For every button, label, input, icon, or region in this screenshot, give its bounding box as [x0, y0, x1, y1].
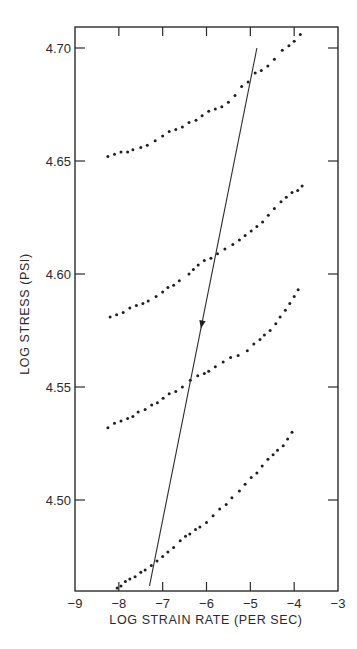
data-point [137, 410, 140, 413]
data-point [291, 431, 294, 434]
data-point [146, 144, 149, 147]
data-point [197, 264, 200, 267]
data-point [194, 528, 197, 531]
data-point [198, 526, 201, 529]
data-point [222, 361, 225, 364]
data-point [179, 539, 182, 542]
data-point [172, 546, 175, 549]
data-point [214, 365, 217, 368]
data-point [106, 155, 109, 158]
data-point [263, 334, 266, 337]
y-tick-label: 4.50 [46, 493, 71, 508]
data-point [254, 71, 257, 74]
x-tick-label: −8 [111, 596, 126, 611]
data-point [162, 397, 165, 400]
data-point [188, 121, 191, 124]
y-tick-label: 4.55 [46, 380, 71, 395]
x-axis-title: LOG STRAIN RATE (PER SEC) [109, 613, 302, 627]
data-point [122, 311, 125, 314]
x-tick-label: −6 [199, 596, 214, 611]
data-point [250, 230, 253, 233]
data-point [135, 304, 138, 307]
data-point [128, 306, 131, 309]
data-point [181, 126, 184, 129]
data-point [234, 94, 237, 97]
data-point [203, 259, 206, 262]
data-point [156, 401, 159, 404]
data-point [220, 105, 223, 108]
data-point [214, 108, 217, 111]
data-point [116, 587, 119, 590]
data-point [288, 302, 291, 305]
data-point [168, 130, 171, 133]
data-point [192, 268, 195, 271]
data-point [212, 514, 215, 517]
y-tick-label: 4.60 [46, 267, 71, 282]
data-point [174, 128, 177, 131]
data-point [131, 415, 134, 418]
data-point [203, 372, 206, 375]
data-point [174, 390, 177, 393]
data-point [161, 555, 164, 558]
data-point [188, 532, 191, 535]
chart-canvas: −9−8−7−6−5−4−3 4.504.554.604.654.70 LOG … [0, 0, 357, 649]
data-point [255, 471, 258, 474]
data-point [178, 279, 181, 282]
data-point [293, 295, 296, 298]
data-point [291, 191, 294, 194]
data-point [161, 135, 164, 138]
data-point [282, 444, 285, 447]
y-tick-label: 4.70 [46, 41, 71, 56]
data-point [134, 575, 137, 578]
x-tick-label: −3 [331, 596, 346, 611]
data-point [230, 496, 233, 499]
data-point [229, 356, 232, 359]
data-point [225, 503, 228, 506]
data-point [209, 257, 212, 260]
data-point [227, 101, 230, 104]
data-point [139, 146, 142, 149]
data-point [286, 438, 289, 441]
data-point [207, 370, 210, 373]
data-point [184, 535, 187, 538]
data-point [250, 476, 253, 479]
y-tick-label: 4.65 [46, 154, 71, 169]
data-point [113, 422, 116, 425]
data-point [284, 309, 287, 312]
data-point [154, 139, 157, 142]
chart-background [0, 0, 357, 649]
data-point [120, 151, 123, 154]
data-point [272, 453, 275, 456]
data-point [196, 374, 199, 377]
data-point [276, 449, 279, 452]
x-tick-label: −9 [68, 596, 83, 611]
data-point [301, 184, 304, 187]
data-point [259, 338, 262, 341]
data-point [244, 234, 247, 237]
data-point [260, 69, 263, 72]
data-point [269, 329, 272, 332]
data-point [150, 404, 153, 407]
data-point [120, 584, 123, 587]
data-point [261, 221, 264, 224]
data-point [144, 569, 147, 572]
x-tick-label: −7 [155, 596, 170, 611]
data-point [147, 300, 150, 303]
data-point [247, 80, 250, 83]
data-point [126, 417, 129, 420]
data-point [181, 386, 184, 389]
data-point [231, 243, 234, 246]
data-point [293, 40, 296, 43]
data-point [106, 426, 109, 429]
data-point [113, 153, 116, 156]
data-point [205, 521, 208, 524]
data-point [218, 508, 221, 511]
data-point [188, 273, 191, 276]
data-point [266, 458, 269, 461]
data-point [274, 322, 277, 325]
data-point [128, 578, 131, 581]
data-point [252, 343, 255, 346]
data-point [238, 239, 241, 242]
data-point [109, 315, 112, 318]
data-point [261, 465, 264, 468]
